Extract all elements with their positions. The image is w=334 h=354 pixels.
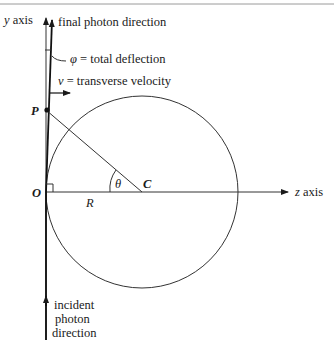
- point-P-label: P: [31, 104, 39, 118]
- point-P-dot: [44, 107, 49, 112]
- final-photon-path: [46, 20, 52, 192]
- theta-label: θ: [115, 177, 121, 191]
- z-axis-label: z axis: [294, 185, 323, 199]
- incident-label-1: incident: [54, 298, 95, 312]
- velocity-label: v = transverse velocity: [58, 74, 172, 88]
- point-O-label: O: [32, 186, 41, 200]
- radius-label: R: [85, 196, 94, 210]
- phi-leader: [52, 56, 66, 61]
- photon-deflection-diagram: y axis z axis final photon direction φ =…: [0, 0, 334, 354]
- phi-label: φ = total deflection: [70, 52, 166, 66]
- incident-label-2: photon: [55, 312, 90, 326]
- y-axis-label: y axis: [2, 13, 33, 27]
- point-C-label: C: [143, 177, 152, 191]
- final-direction-label: final photon direction: [58, 15, 167, 29]
- incident-label-3: direction: [52, 326, 97, 340]
- line-P-to-C: [46, 110, 142, 192]
